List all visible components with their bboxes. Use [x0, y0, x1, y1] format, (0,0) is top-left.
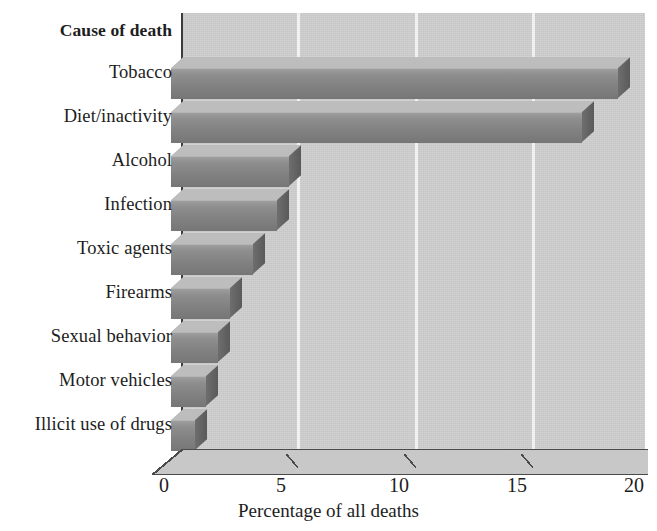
x-tick-label-15: 15: [507, 474, 527, 497]
bar-front-face: [171, 288, 230, 319]
x-tick-15: [521, 454, 533, 468]
bar-top-face: [171, 189, 289, 200]
x-tick-10: [404, 454, 416, 468]
bar-front-face: [171, 420, 195, 451]
bar: [171, 189, 289, 230]
bar-chart: Cause of death Tobacco Diet/inactivity A…: [0, 0, 657, 531]
x-tick-5: [286, 454, 298, 468]
bar-top-face: [171, 233, 265, 244]
bar-front-face: [171, 200, 277, 231]
bar-front-face: [171, 376, 206, 407]
bar: [171, 277, 242, 318]
bar-front-face: [171, 156, 289, 187]
bar-front-face: [171, 68, 618, 99]
bar: [171, 365, 218, 406]
bar: [171, 321, 230, 362]
bar-top-face: [171, 145, 301, 156]
bar: [171, 57, 630, 98]
floor-face: [152, 449, 648, 475]
category-label-0: Tobacco: [2, 62, 172, 83]
bar-front-face: [171, 332, 218, 363]
x-axis-title: Percentage of all deaths: [0, 500, 657, 522]
category-label-2: Alcohol: [2, 150, 172, 171]
category-axis-header: Cause of death: [2, 20, 172, 41]
bar: [171, 233, 265, 274]
category-label-5: Firearms: [2, 282, 172, 303]
bar-front-face: [171, 112, 582, 143]
category-label-7: Motor vehicles: [2, 370, 172, 391]
category-label-3: Infection: [2, 194, 172, 215]
bar: [171, 145, 301, 186]
category-label-8: Illicit use of drugs: [2, 414, 172, 435]
category-labels: Cause of death Tobacco Diet/inactivity A…: [0, 0, 172, 460]
category-label-4: Toxic agents: [2, 238, 172, 259]
category-label-1: Diet/inactivity: [2, 106, 172, 127]
bar-front-face: [171, 244, 253, 275]
bar: [171, 409, 207, 450]
bar: [171, 101, 594, 142]
floor-top-edge: [182, 449, 648, 450]
floor-left-edge: [152, 449, 183, 475]
x-tick-label-20: 20: [624, 474, 644, 497]
x-tick-label-10: 10: [389, 474, 409, 497]
x-tick-label-5: 5: [276, 474, 286, 497]
x-axis-floor: [152, 449, 648, 475]
x-tick-label-0: 0: [159, 474, 169, 497]
bar-top-face: [171, 57, 630, 68]
bar-top-face: [171, 101, 594, 112]
category-label-6: Sexual behavior: [2, 326, 172, 347]
